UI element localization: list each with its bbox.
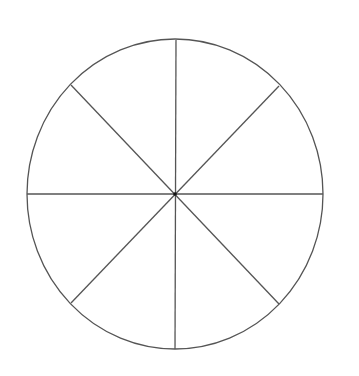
center-point [173,192,177,196]
eight-segment-circle-diagram [0,0,359,376]
